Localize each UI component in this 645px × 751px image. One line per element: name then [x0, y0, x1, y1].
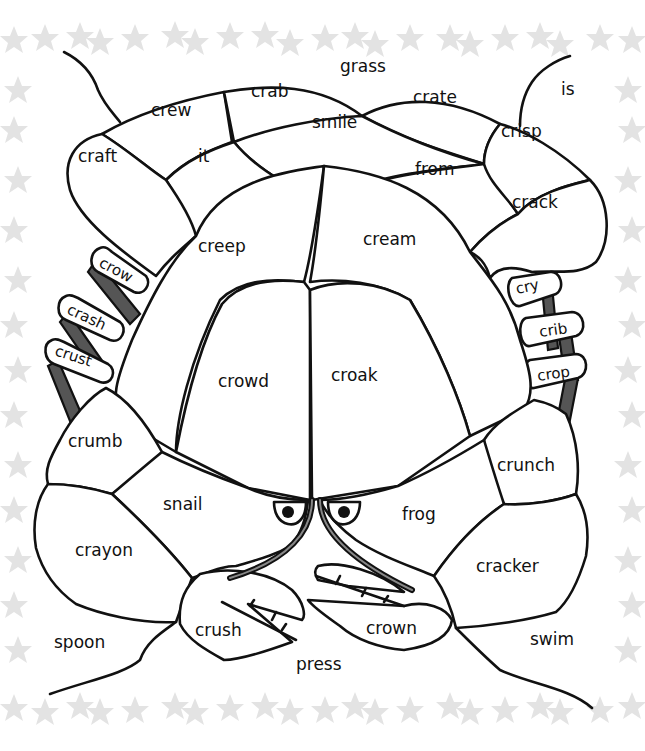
crab-worksheet: grass is crab crate crew smile crisp cra…	[0, 0, 645, 751]
border-right	[614, 76, 645, 663]
border-bottom	[0, 692, 645, 725]
label-crate: crate	[413, 87, 457, 107]
label-crush: crush	[195, 620, 242, 640]
label-is: is	[561, 79, 575, 99]
label-from: from	[415, 159, 455, 179]
antenna-left	[64, 52, 120, 122]
label-swim: swim	[530, 629, 574, 649]
label-croak: croak	[331, 365, 378, 385]
label-spoon: spoon	[54, 632, 105, 652]
label-crack: crack	[512, 192, 558, 212]
label-crumb: crumb	[68, 431, 122, 451]
label-crew: crew	[151, 100, 191, 120]
label-cracker: cracker	[476, 556, 539, 576]
label-crown: crown	[366, 618, 417, 638]
label-cream: cream	[363, 229, 416, 249]
label-crunch: crunch	[497, 455, 555, 475]
border-left	[0, 76, 32, 663]
label-creep: creep	[198, 236, 246, 256]
label-crayon: crayon	[75, 540, 133, 560]
label-crisp: crisp	[501, 121, 542, 141]
label-craft: craft	[78, 146, 117, 166]
border-top	[0, 21, 645, 57]
pupil-left	[282, 506, 294, 518]
label-snail: snail	[163, 494, 203, 514]
label-crab: crab	[251, 81, 289, 101]
label-press: press	[296, 654, 342, 674]
pupil-right	[338, 506, 350, 518]
region-crush[interactable]	[180, 571, 304, 660]
label-frog: frog	[402, 504, 436, 524]
label-it: it	[198, 146, 210, 166]
label-grass: grass	[340, 56, 386, 76]
label-crowd: crowd	[218, 371, 269, 391]
label-smile: smile	[312, 112, 357, 132]
